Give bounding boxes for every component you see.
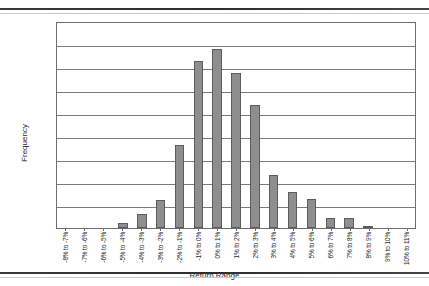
x-tick-mark <box>274 228 275 231</box>
x-tick: -6% to -5% <box>94 230 113 272</box>
bar[interactable] <box>175 145 184 228</box>
x-tick-label: -1% to 0% <box>195 232 202 261</box>
x-tick-label: 1% to 2% <box>233 232 240 259</box>
x-tick: 9% to 10% <box>378 230 397 272</box>
x-axis-ticks: -8% to -7%-7% to -6%-6% to -5%-5% to -4%… <box>56 230 416 272</box>
bar-slot <box>283 23 302 228</box>
bar-slot <box>76 23 95 228</box>
histogram-chart: Frequency 45% 40% 35% 30% 25% 20% 15% 10… <box>0 0 429 286</box>
x-tick: 3% to 4% <box>264 230 283 272</box>
page-rule-bottom <box>0 272 429 274</box>
x-tick-mark <box>388 228 389 231</box>
x-tick-label: 7% to 8% <box>346 232 353 259</box>
x-tick-label: -4% to -3% <box>138 232 145 263</box>
x-tick-mark <box>122 228 123 231</box>
bar[interactable] <box>231 73 240 228</box>
x-tick: 0% to 1% <box>208 230 227 272</box>
bar[interactable] <box>307 199 316 228</box>
x-tick: 7% to 8% <box>340 230 359 272</box>
x-tick: 5% to 6% <box>302 230 321 272</box>
x-tick-mark <box>103 228 104 231</box>
bar-slot <box>114 23 133 228</box>
x-tick-mark <box>312 228 313 231</box>
bar-series <box>57 23 415 228</box>
x-tick-mark <box>179 228 180 231</box>
x-tick: 6% to 7% <box>321 230 340 272</box>
bar-slot <box>321 23 340 228</box>
x-tick: 1% to 2% <box>227 230 246 272</box>
x-tick-label: 10% to 11% <box>403 232 410 265</box>
x-tick-label: 9% to 10% <box>384 232 391 262</box>
x-tick: -4% to -3% <box>132 230 151 272</box>
page-rule-top <box>0 8 429 10</box>
plot-area <box>56 22 416 229</box>
x-tick-label: 6% to 7% <box>327 232 334 259</box>
x-tick: -5% to -4% <box>113 230 132 272</box>
bar-slot <box>264 23 283 228</box>
x-tick-label: -7% to -6% <box>81 232 88 263</box>
x-tick-mark <box>350 228 351 231</box>
bar-slot <box>95 23 114 228</box>
x-tick-label: -3% to -2% <box>157 232 164 263</box>
bar[interactable] <box>344 218 353 228</box>
x-tick-mark <box>369 228 370 231</box>
bar[interactable] <box>137 214 146 228</box>
x-tick-mark <box>293 228 294 231</box>
bar-slot <box>208 23 227 228</box>
x-tick-label: -5% to -4% <box>119 232 126 263</box>
bar-slot <box>189 23 208 228</box>
x-tick: 8% to 9% <box>359 230 378 272</box>
x-tick-label: 2% to 3% <box>252 232 259 259</box>
x-tick: 10% to 11% <box>397 230 416 272</box>
x-tick-mark <box>255 228 256 231</box>
x-tick-label: -8% to -7% <box>62 232 69 263</box>
x-tick-mark <box>236 228 237 231</box>
x-tick-label: 8% to 9% <box>365 232 372 259</box>
page-rule-bottom-faint <box>0 277 429 278</box>
x-tick-mark <box>407 228 408 231</box>
x-tick-mark <box>331 228 332 231</box>
x-tick: -3% to -2% <box>151 230 170 272</box>
x-tick: 4% to 5% <box>283 230 302 272</box>
bar[interactable] <box>288 192 297 228</box>
x-tick-label: -2% to -1% <box>176 232 183 263</box>
bar[interactable] <box>269 175 278 228</box>
x-tick-mark <box>217 228 218 231</box>
bar[interactable] <box>156 200 165 228</box>
x-tick: -7% to -6% <box>75 230 94 272</box>
bar[interactable] <box>194 61 203 228</box>
bar-slot <box>396 23 415 228</box>
bar[interactable] <box>212 49 221 228</box>
bar-slot <box>302 23 321 228</box>
x-tick-mark <box>84 228 85 231</box>
x-tick-label: -6% to -5% <box>100 232 107 263</box>
x-tick-label: 4% to 5% <box>289 232 296 259</box>
x-tick-label: 0% to 1% <box>214 232 221 259</box>
x-tick: -8% to -7% <box>56 230 75 272</box>
x-tick-mark <box>141 228 142 231</box>
bar-slot <box>170 23 189 228</box>
x-tick: 2% to 3% <box>246 230 265 272</box>
page-rule-top-faint <box>0 13 429 14</box>
bar-slot <box>359 23 378 228</box>
bar-slot <box>340 23 359 228</box>
x-tick-label: 3% to 4% <box>270 232 277 259</box>
x-tick-mark <box>160 228 161 231</box>
bar-slot <box>245 23 264 228</box>
x-tick-mark <box>198 228 199 231</box>
bar-slot <box>57 23 76 228</box>
x-tick-label: 5% to 6% <box>308 232 315 259</box>
bar-slot <box>132 23 151 228</box>
x-tick: -1% to 0% <box>189 230 208 272</box>
bar-slot <box>227 23 246 228</box>
x-tick-mark <box>65 228 66 231</box>
bar[interactable] <box>326 218 335 228</box>
bar-slot <box>377 23 396 228</box>
bar-slot <box>151 23 170 228</box>
x-tick: -2% to -1% <box>170 230 189 272</box>
y-axis-title: Frequency <box>20 124 29 162</box>
bar[interactable] <box>250 105 259 228</box>
